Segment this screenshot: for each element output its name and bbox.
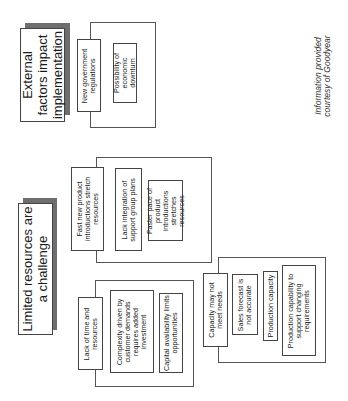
item-text: Production capability to support changin… [287, 268, 311, 354]
fast-new-product-box: Fast new product introductions stretch r… [71, 167, 104, 251]
item-text: Sales forecast is not accurate [237, 277, 253, 333]
item-text: Lack integration of support group plans [120, 170, 136, 250]
capacity-may-not-box: Capacity may not meet needs [203, 273, 228, 347]
item-text: New government regulations [81, 41, 97, 111]
credit-text: Information provided courtesy of Goodyea… [314, 26, 333, 126]
capital-availability-box: Capital availability limits opportunitie… [159, 293, 183, 373]
item-text: Capacity may not meet needs [207, 275, 223, 345]
lack-integration-box: Lack integration of support group plans [115, 168, 142, 251]
item-text: Fast new product introductions stretch r… [75, 169, 99, 249]
complexity-box: Complexity driven by customer demands re… [110, 290, 154, 373]
external-factors-title-box: External factors impact implementation [20, 28, 65, 122]
item-text: Complexity driven by customer demands re… [116, 293, 148, 371]
economic-downturn-box: Possibility of economic downturn [113, 43, 137, 103]
item-text: Faster pace of product introductions str… [145, 183, 185, 239]
faster-pace-box: Faster pace of product introductions str… [148, 180, 183, 241]
item-text: Production capacity [266, 272, 274, 340]
limited-resources-title: Limited resources are a challenge [21, 205, 51, 333]
item-text: Lack of time and resources [82, 300, 98, 368]
sales-forecast-box: Sales forecast is not accurate [232, 274, 258, 335]
production-capacity-box: Production capacity [263, 271, 278, 341]
external-factors-title: External factors impact implementation [20, 30, 65, 120]
credit-text-container: Information provided courtesy of Goodyea… [311, 30, 335, 122]
limited-resources-title-box: Limited resources are a challenge [18, 203, 53, 335]
new-government-regulations-box: New government regulations [77, 39, 101, 112]
lack-of-time-box: Lack of time and resources [78, 297, 103, 370]
item-text: Possibility of economic downturn [113, 47, 137, 99]
item-text: Capital availability limits opportunitie… [163, 295, 179, 371]
production-capability-box: Production capability to support changin… [282, 265, 316, 356]
